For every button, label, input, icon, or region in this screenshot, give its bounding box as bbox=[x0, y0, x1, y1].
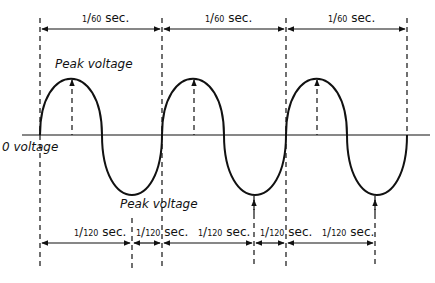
half-period-label-5: 1/120 sec. bbox=[322, 225, 374, 239]
sine-waveform bbox=[40, 79, 407, 195]
sine-wave-diagram: 1/60 sec. 1/60 sec. 1/60 sec. 1/120 sec.… bbox=[0, 0, 435, 283]
peak-guides bbox=[72, 80, 375, 218]
period-label-2: 1/60 sec. bbox=[205, 11, 252, 25]
half-period-label-2: 1/120 sec. bbox=[136, 225, 188, 239]
half-period-label-4: 1/120 sec. bbox=[260, 225, 312, 239]
period-label-1: 1/60 sec. bbox=[82, 11, 129, 25]
peak-voltage-label-bottom: Peak voltage bbox=[120, 197, 198, 211]
half-period-label-1: 1/120 sec. bbox=[74, 225, 126, 239]
half-period-label-3: 1/120 sec. bbox=[198, 225, 250, 239]
zero-voltage-label: 0 voltage bbox=[2, 140, 58, 154]
peak-voltage-label-top: Peak voltage bbox=[55, 57, 133, 71]
period-label-3: 1/60 sec. bbox=[328, 11, 375, 25]
